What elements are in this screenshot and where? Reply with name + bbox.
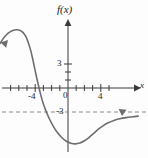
x-axis-label: x (140, 81, 144, 90)
y-axis-arrowhead (65, 19, 72, 26)
function-curve (0, 30, 138, 144)
x-tick-label-4: 4 (98, 92, 103, 101)
curve-right-arrowhead (119, 109, 127, 116)
y-tick-label-3: 3 (57, 59, 62, 68)
x-tick-label-minus-4: -4 (28, 92, 36, 101)
x-tick-label-zero: 0 (63, 91, 68, 100)
plot-canvas (0, 0, 148, 158)
y-tick-label-minus-3: -3 (56, 107, 64, 116)
function-graph-figure: f(x) x -4 0 4 3 -3 (0, 0, 148, 158)
y-axis-label: f(x) (57, 4, 72, 15)
